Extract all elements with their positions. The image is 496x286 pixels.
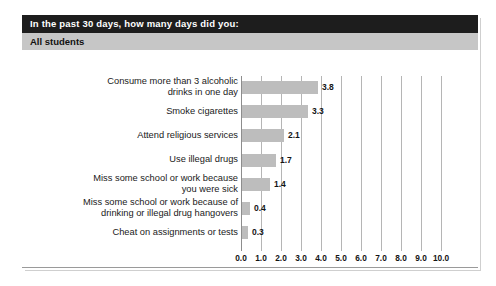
gridline-5.0 (341, 76, 342, 251)
bar (242, 129, 284, 142)
bar (242, 81, 318, 94)
bar-plot: 3.83.32.11.71.40.40.3 (241, 76, 441, 251)
gridline-9.0 (421, 76, 422, 251)
gridline-10.0 (441, 76, 442, 251)
page-title-emphasis: days (175, 18, 197, 29)
chart-panel: In the past 30 days, how many days did y… (22, 15, 478, 268)
bar-value-label: 3.3 (312, 105, 324, 118)
bar (242, 226, 248, 239)
gridline-3.0 (301, 76, 302, 251)
bar-value-label: 3.8 (322, 81, 334, 94)
category-label: Use illegal drugs (28, 154, 238, 165)
gridline-6.0 (361, 76, 362, 251)
panel-title-bar: In the past 30 days, how many days did y… (22, 15, 478, 33)
panel-bottom-shadow (25, 270, 481, 271)
bar (242, 178, 270, 191)
category-label: Consume more than 3 alcoholic drinks in … (28, 76, 238, 97)
category-label: Attend religious services (28, 130, 238, 141)
bar-value-label: 1.4 (274, 178, 286, 191)
chart-plot-region: Consume more than 3 alcoholic drinks in … (22, 50, 478, 267)
panel-subtitle: All students (30, 36, 84, 47)
category-label: Cheat on assignments or tests (28, 227, 238, 238)
panel-right-shadow (480, 18, 481, 270)
panel-subtitle-bar: All students (22, 33, 478, 50)
category-label: Miss some school or work because you wer… (28, 173, 238, 194)
page-title: In the past 30 days, how many days did y… (30, 18, 239, 29)
bar-value-label: 2.1 (288, 129, 300, 142)
gridline-7.0 (381, 76, 382, 251)
gridline-4.0 (321, 76, 322, 251)
bar (242, 105, 308, 118)
category-label: Miss some school or work because of drin… (28, 197, 238, 218)
x-axis-tick-labels: 0.01.02.03.04.05.06.07.08.09.010.0 (241, 253, 465, 267)
x-tick-label: 10.0 (429, 253, 453, 263)
page-title-suffix: did you: (198, 18, 239, 29)
bar-value-label: 0.4 (254, 202, 266, 215)
bar (242, 202, 250, 215)
bar (242, 154, 276, 167)
bar-value-label: 1.7 (280, 154, 292, 167)
page-title-prefix: In the past 30 days, how many (30, 18, 175, 29)
category-label: Smoke cigarettes (28, 106, 238, 117)
bar-value-label: 0.3 (252, 226, 264, 239)
axis-baseline (241, 251, 441, 252)
gridline-8.0 (401, 76, 402, 251)
category-label-group: Consume more than 3 alcoholic drinks in … (26, 76, 238, 251)
